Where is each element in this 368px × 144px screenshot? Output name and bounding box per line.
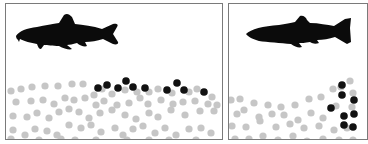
- pebble: [55, 108, 62, 115]
- pebble: [111, 124, 118, 131]
- pebble: [330, 126, 337, 133]
- pebble: [286, 120, 293, 127]
- pebble: [315, 122, 322, 129]
- pebble: [41, 82, 48, 89]
- scene-1: [6, 4, 223, 140]
- pebble: [303, 137, 310, 140]
- pebble: [268, 110, 275, 117]
- pebble: [92, 136, 99, 140]
- pebble: [136, 94, 143, 101]
- pebble: [264, 101, 271, 108]
- pebble: [68, 80, 75, 87]
- pebble: [274, 136, 281, 140]
- pebble: [207, 129, 214, 136]
- egg: [163, 86, 171, 94]
- pebble: [348, 103, 355, 110]
- pebble: [35, 136, 42, 140]
- pebble: [191, 97, 198, 104]
- pebble: [65, 121, 72, 128]
- pebble: [181, 111, 188, 118]
- egg: [94, 84, 102, 92]
- pebble: [229, 96, 235, 103]
- pebble: [145, 136, 152, 140]
- pebble: [349, 136, 356, 140]
- minnow-fish-icon: [16, 14, 118, 49]
- pebble: [231, 135, 238, 140]
- egg: [338, 81, 346, 89]
- egg: [180, 86, 188, 94]
- egg: [350, 110, 358, 118]
- pebble: [151, 129, 158, 136]
- pebble: [92, 101, 99, 108]
- pebble: [70, 96, 77, 103]
- pebble: [193, 85, 200, 92]
- pebble: [61, 94, 68, 101]
- egg: [349, 123, 357, 131]
- pebble: [12, 98, 19, 105]
- pebble: [197, 124, 204, 131]
- egg: [350, 96, 358, 104]
- pebble: [108, 106, 115, 113]
- pebble: [154, 85, 161, 92]
- pebble: [132, 115, 139, 122]
- pebble: [294, 116, 301, 123]
- pebble: [65, 105, 72, 112]
- pebble: [54, 82, 61, 89]
- pebble: [97, 128, 104, 135]
- pebble: [349, 89, 356, 96]
- pebble: [236, 95, 243, 102]
- pebble: [81, 94, 88, 101]
- pebble: [7, 87, 14, 94]
- pebble: [79, 80, 86, 87]
- pebble: [300, 124, 307, 131]
- egg: [340, 121, 348, 129]
- egg: [200, 88, 208, 96]
- egg: [327, 104, 335, 112]
- pebble: [71, 136, 78, 140]
- egg: [103, 81, 111, 89]
- pebble: [154, 113, 161, 120]
- pebble: [305, 95, 312, 102]
- pebble: [7, 135, 14, 140]
- pebble: [317, 93, 324, 100]
- pebble: [196, 107, 203, 114]
- egg: [114, 84, 122, 92]
- panel-eggs-buried: [228, 3, 368, 140]
- pebble: [27, 97, 34, 104]
- pebble: [346, 77, 353, 84]
- pebble: [85, 114, 92, 121]
- pebble: [307, 109, 314, 116]
- pebble: [17, 85, 24, 92]
- pebble: [250, 99, 257, 106]
- pebble: [208, 93, 215, 100]
- pebble: [145, 109, 152, 116]
- pebble: [280, 111, 287, 118]
- pebble: [192, 136, 199, 140]
- pebble: [319, 135, 326, 140]
- pebble: [23, 113, 30, 120]
- pebble: [172, 131, 179, 138]
- pebble: [33, 109, 40, 116]
- pebble: [31, 125, 38, 132]
- pebble: [291, 101, 298, 108]
- egg: [173, 79, 181, 87]
- pebble: [77, 124, 84, 131]
- pebble: [167, 106, 174, 113]
- pebble: [39, 96, 46, 103]
- pebble: [21, 131, 28, 138]
- trout-fish-icon: [246, 16, 351, 48]
- pebble: [139, 122, 146, 129]
- pebble: [96, 109, 103, 116]
- pebble: [129, 125, 136, 132]
- pebble: [165, 136, 172, 140]
- pebble: [245, 135, 252, 140]
- pebble: [210, 107, 217, 114]
- panel-eggs-on-surface: [5, 3, 223, 140]
- pebble: [108, 90, 115, 97]
- egg: [340, 112, 348, 120]
- pebble: [144, 100, 151, 107]
- egg: [129, 83, 137, 91]
- pebble: [277, 103, 284, 110]
- pebble: [100, 97, 107, 104]
- pebble: [121, 111, 128, 118]
